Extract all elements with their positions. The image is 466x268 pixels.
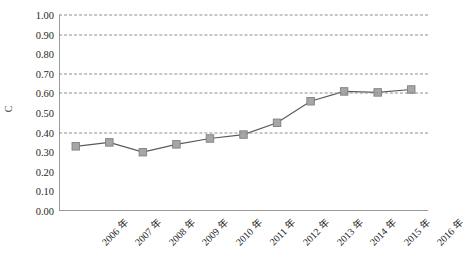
series-path	[76, 89, 411, 152]
x-tick-label: 2013 年	[334, 217, 365, 248]
x-tick-label: 2008 年	[166, 217, 197, 248]
x-tick-label: 2012 年	[301, 217, 332, 248]
y-tick-label: 0.70	[18, 68, 54, 79]
x-tick-label: 2014 年	[368, 217, 399, 248]
y-tick-label: 0.50	[18, 108, 54, 119]
data-point-marker	[340, 88, 348, 96]
x-tick-label: 2009 年	[200, 217, 231, 248]
x-tick-label: 2007 年	[133, 217, 164, 248]
x-tick-label: 2010 年	[233, 217, 264, 248]
y-tick-label: 0.20	[18, 166, 54, 177]
data-point-marker	[273, 119, 281, 127]
data-point-marker	[206, 135, 214, 143]
gridline	[59, 132, 428, 133]
y-tick-label: 0.40	[18, 127, 54, 138]
data-point-marker	[139, 148, 147, 156]
gridline	[59, 15, 428, 16]
y-tick-label: 0.10	[18, 186, 54, 197]
x-tick-label: 2006 年	[99, 217, 130, 248]
plot-area	[59, 15, 428, 211]
y-tick-label: 1.00	[18, 10, 54, 21]
gridline	[59, 34, 428, 35]
y-axis-tick-labels: 0.000.100.200.300.400.500.600.700.800.90…	[18, 0, 54, 268]
series-line-c	[59, 15, 428, 211]
data-point-marker	[173, 141, 181, 149]
y-tick-label: 0.60	[18, 88, 54, 99]
y-tick-label: 0.90	[18, 29, 54, 40]
gridline	[59, 73, 428, 74]
x-tick-label: 2011 年	[267, 217, 298, 248]
gridline	[59, 93, 428, 94]
y-tick-label: 0.00	[18, 206, 54, 217]
x-axis-tick-labels: 2006 年2007 年2008 年2009 年2010 年2011 年2012…	[59, 211, 428, 268]
data-point-marker	[106, 139, 114, 147]
data-point-marker	[72, 143, 80, 151]
y-tick-label: 0.30	[18, 147, 54, 158]
y-axis-title: C	[4, 102, 14, 116]
x-tick-label: 2016 年	[435, 217, 466, 248]
x-tick-label: 2015 年	[401, 217, 432, 248]
y-tick-label: 0.80	[18, 49, 54, 60]
data-point-marker	[307, 97, 315, 105]
